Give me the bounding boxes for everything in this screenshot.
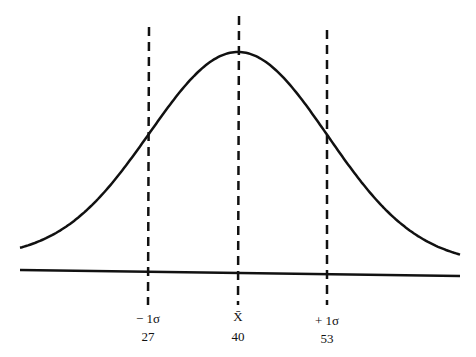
- minus-1-sigma-label: − 1σ: [128, 311, 168, 327]
- mean-line: [238, 16, 239, 305]
- plus-1-sigma-label: + 1σ: [307, 313, 347, 329]
- mean-value: 40: [218, 329, 258, 345]
- normal-curve-diagram: [0, 0, 476, 357]
- mean-label: X̄: [218, 309, 258, 325]
- plus-1-sigma-value: 53: [307, 331, 347, 347]
- baseline-axis: [20, 270, 460, 276]
- minus-1-sigma-value: 27: [128, 329, 168, 345]
- minus-1-sigma-line: [148, 27, 149, 305]
